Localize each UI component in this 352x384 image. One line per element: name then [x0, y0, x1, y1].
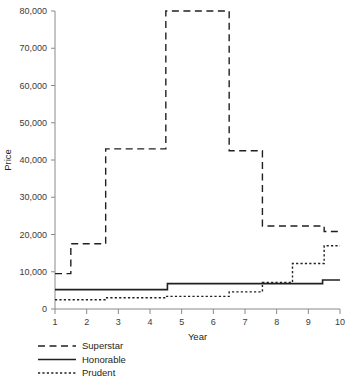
y-tick-label: 0	[42, 304, 47, 314]
series-line-superstar	[55, 11, 340, 274]
series-line-honorable	[55, 280, 340, 290]
y-tick-label: 70,000	[19, 43, 47, 53]
y-tick-label: 40,000	[19, 155, 47, 165]
y-axis: 010,00020,00030,00040,00050,00060,00070,…	[2, 6, 55, 314]
x-tick-label: 6	[211, 317, 216, 327]
x-axis: 12345678910 Year	[52, 309, 345, 342]
x-tick-label: 4	[147, 317, 152, 327]
x-tick-label: 7	[242, 317, 247, 327]
y-tick-label: 10,000	[19, 267, 47, 277]
y-axis-title: Price	[2, 149, 13, 171]
x-axis-title: Year	[188, 331, 207, 342]
x-tick-label: 5	[179, 317, 184, 327]
x-tick-label: 9	[306, 317, 311, 327]
price-by-year-step-chart: 010,00020,00030,00040,00050,00060,00070,…	[0, 0, 352, 384]
series-line-prudent	[55, 246, 340, 300]
x-tick-label: 2	[84, 317, 89, 327]
legend-label-superstar: Superstar	[82, 340, 123, 351]
x-tick-label: 8	[274, 317, 279, 327]
y-tick-label: 60,000	[19, 81, 47, 91]
legend-label-prudent: Prudent	[82, 367, 116, 378]
x-tick-label: 3	[116, 317, 121, 327]
legend-label-honorable: Honorable	[82, 354, 126, 365]
y-tick-label: 50,000	[19, 118, 47, 128]
y-tick-label: 30,000	[19, 192, 47, 202]
y-axis-ticks: 010,00020,00030,00040,00050,00060,00070,…	[19, 6, 55, 314]
x-axis-ticks: 12345678910	[52, 309, 345, 327]
y-tick-label: 80,000	[19, 6, 47, 16]
chart-canvas: 010,00020,00030,00040,00050,00060,00070,…	[0, 0, 352, 384]
x-tick-label: 1	[52, 317, 57, 327]
y-tick-label: 20,000	[19, 230, 47, 240]
x-tick-label: 10	[335, 317, 345, 327]
chart-legend: SuperstarHonorablePrudent	[38, 340, 126, 378]
series-group	[55, 11, 340, 300]
